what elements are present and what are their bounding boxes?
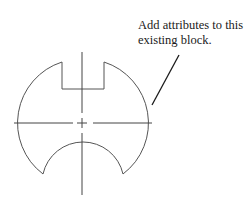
annotation-line-1: Add attributes to this [138, 18, 250, 33]
leader-line [152, 55, 179, 105]
annotation-line-2: existing block. [138, 33, 250, 48]
annotation-text: Add attributes to this existing block. [138, 18, 250, 48]
block-outline [18, 62, 149, 174]
